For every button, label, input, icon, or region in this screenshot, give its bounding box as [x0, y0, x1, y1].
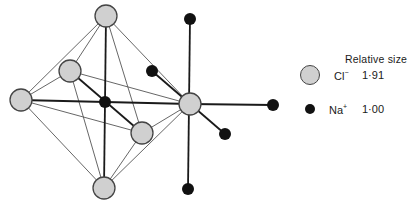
na-relative-size: 1·00 [362, 103, 384, 115]
legend-title: Relative size [345, 53, 407, 65]
legend-item-cl: Cl− 1·91 [300, 65, 348, 85]
cl-ion [179, 93, 201, 115]
bonds [21, 16, 273, 189]
cl-relative-size: 1·91 [362, 69, 384, 81]
na-ion [219, 128, 231, 140]
cl-ion [59, 60, 81, 82]
na-ion [267, 99, 279, 111]
cl-swatch-icon [300, 65, 320, 85]
na-ion [184, 13, 196, 25]
cl-label: Cl− [334, 69, 348, 82]
na-swatch-icon [305, 104, 315, 114]
cl-ion [95, 5, 117, 27]
na-ion [182, 183, 194, 195]
na-label: Na+ [329, 103, 347, 116]
nacl-structure-diagram [0, 0, 418, 205]
cl-ion [93, 177, 115, 199]
cl-ion [10, 89, 32, 111]
cl-ion [131, 122, 153, 144]
na-ion [99, 96, 111, 108]
na-ion [146, 65, 158, 77]
legend-item-na: Na+ 1·00 [305, 103, 347, 116]
